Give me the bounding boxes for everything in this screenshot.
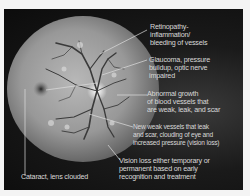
label-abnormal-growth: Abnormal growth of blood vessels that ar… bbox=[147, 90, 220, 114]
label-cataract: Cataract, lens clouded bbox=[21, 173, 88, 181]
label-vision-loss: Vision loss either temporary or permanen… bbox=[119, 157, 210, 181]
label-retinopathy: Retinopathy- inflammation/ bleeding of v… bbox=[150, 23, 207, 47]
label-glaucoma: Glaucoma, pressure buildup, optic nerve … bbox=[149, 56, 210, 80]
label-new-weak-vessels: New weak vessels that leak and scar, clo… bbox=[133, 123, 219, 147]
diagram-panel: Retinopathy- inflammation/ bleeding of v… bbox=[4, 9, 243, 190]
